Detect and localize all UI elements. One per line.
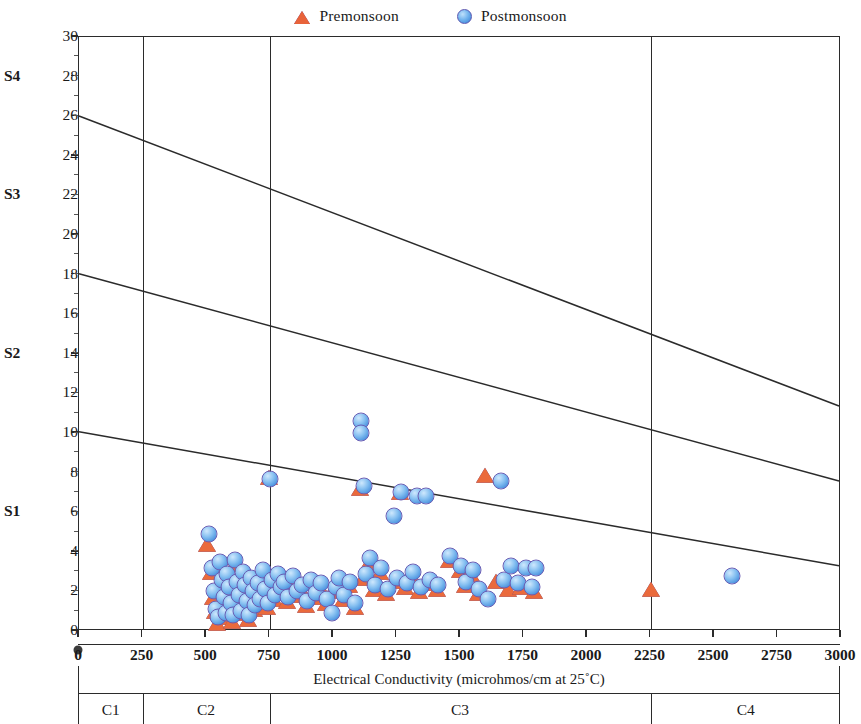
x-tick-label: 250 bbox=[130, 646, 153, 664]
x-tick-mark bbox=[204, 630, 206, 637]
x-tick-label: 2750 bbox=[761, 646, 792, 664]
chart-legend: Premonsoon Postmonsoon bbox=[0, 4, 861, 28]
x-tick-label: 2500 bbox=[698, 646, 729, 664]
y-axis-tick-labels: 024681012141618202224262830 bbox=[30, 0, 78, 724]
salinity-diagram: Premonsoon Postmonsoon S1S2S3S4 02468101… bbox=[0, 0, 861, 724]
x-tick-mark bbox=[77, 630, 79, 637]
y-minor-tick bbox=[74, 95, 78, 96]
data-point-postmonsoon bbox=[341, 573, 358, 590]
y-minor-tick bbox=[74, 75, 78, 76]
data-point-postmonsoon bbox=[492, 472, 509, 489]
y-minor-tick bbox=[74, 550, 78, 551]
y-minor-tick bbox=[74, 451, 78, 452]
x-tick-mark bbox=[522, 630, 524, 637]
data-point-postmonsoon bbox=[356, 478, 373, 495]
data-point-postmonsoon bbox=[393, 484, 410, 501]
data-point-postmonsoon bbox=[417, 488, 434, 505]
y-minor-tick bbox=[74, 333, 78, 334]
y-minor-tick bbox=[74, 214, 78, 215]
sodium-class-label-s3: S3 bbox=[4, 185, 20, 203]
x-tick-label: 3000 bbox=[825, 646, 856, 664]
x-tick-mark bbox=[649, 630, 651, 637]
y-minor-tick bbox=[74, 610, 78, 611]
sodium-class-label-s4: S4 bbox=[4, 67, 20, 85]
salinity-class-label-c2: C2 bbox=[197, 701, 215, 719]
data-point-postmonsoon bbox=[723, 567, 740, 584]
x-tick-label: 2000 bbox=[571, 646, 602, 664]
sodium-class-label-s1: S1 bbox=[4, 502, 20, 520]
boundary-line-s2-s3 bbox=[79, 274, 839, 481]
data-point-postmonsoon bbox=[347, 595, 364, 612]
plot-area bbox=[78, 36, 840, 630]
salinity-band-divider-750 bbox=[270, 694, 271, 724]
y-minor-tick bbox=[74, 570, 78, 571]
triangle-icon bbox=[294, 11, 310, 24]
salinity-class-label-c3: C3 bbox=[451, 701, 469, 719]
x-tick-label: 1250 bbox=[380, 646, 411, 664]
x-axis-title-box: Electrical Conductivity (microhmos/cm at… bbox=[78, 666, 840, 694]
circle-icon bbox=[457, 9, 472, 24]
salinity-divider-750 bbox=[270, 37, 272, 629]
data-point-postmonsoon bbox=[405, 563, 422, 580]
x-axis-line bbox=[78, 644, 840, 645]
y-minor-tick bbox=[74, 590, 78, 591]
data-point-postmonsoon bbox=[261, 470, 278, 487]
x-tick-mark bbox=[395, 630, 397, 637]
salinity-divider-2250 bbox=[651, 37, 653, 629]
salinity-class-band: C1C2C3C4 bbox=[78, 694, 840, 724]
x-tick-mark bbox=[776, 630, 778, 637]
x-tick-mark bbox=[839, 630, 841, 637]
boundary-line-s3-s4 bbox=[79, 116, 839, 406]
legend-label-postmonsoon: Postmonsoon bbox=[481, 7, 567, 25]
data-point-postmonsoon bbox=[528, 559, 545, 576]
y-minor-tick bbox=[74, 234, 78, 235]
data-point-postmonsoon bbox=[430, 577, 447, 594]
y-minor-tick bbox=[74, 313, 78, 314]
y-minor-tick bbox=[74, 115, 78, 116]
data-point-postmonsoon bbox=[385, 508, 402, 525]
x-tick-label: 1500 bbox=[444, 646, 475, 664]
y-minor-tick bbox=[74, 352, 78, 353]
data-point-postmonsoon bbox=[464, 561, 481, 578]
x-tick-label: 1000 bbox=[317, 646, 348, 664]
x-tick-label: 0 bbox=[74, 646, 82, 664]
y-minor-tick bbox=[74, 372, 78, 373]
x-axis-tick-labels: 0250500750100012501500175020002250250027… bbox=[0, 646, 861, 668]
x-tick-mark bbox=[141, 630, 143, 637]
x-tick-mark bbox=[458, 630, 460, 637]
y-minor-tick bbox=[74, 273, 78, 274]
class-boundary-lines bbox=[79, 37, 839, 629]
x-tick-label: 1750 bbox=[507, 646, 538, 664]
data-point-postmonsoon bbox=[373, 559, 390, 576]
legend-label-premonsoon: Premonsoon bbox=[319, 7, 399, 25]
y-minor-tick bbox=[74, 154, 78, 155]
data-point-postmonsoon bbox=[201, 525, 218, 542]
salinity-band-divider-250 bbox=[143, 694, 144, 724]
y-minor-tick bbox=[74, 412, 78, 413]
x-tick-mark bbox=[712, 630, 714, 637]
y-minor-tick bbox=[74, 392, 78, 393]
legend-item-premonsoon: Premonsoon bbox=[294, 7, 399, 25]
salinity-class-label-c4: C4 bbox=[737, 701, 755, 719]
data-point-postmonsoon bbox=[479, 591, 496, 608]
y-minor-tick bbox=[74, 491, 78, 492]
y-minor-tick bbox=[74, 55, 78, 56]
y-minor-tick bbox=[74, 531, 78, 532]
y-minor-tick bbox=[74, 471, 78, 472]
sodium-class-label-s2: S2 bbox=[4, 344, 20, 362]
y-minor-tick bbox=[74, 194, 78, 195]
x-tick-label: 2250 bbox=[634, 646, 665, 664]
data-point-premonsoon bbox=[642, 582, 660, 597]
x-axis-title: Electrical Conductivity (microhmos/cm at… bbox=[313, 671, 605, 688]
data-point-postmonsoon bbox=[324, 605, 341, 622]
y-minor-tick bbox=[74, 174, 78, 175]
salinity-band-divider-2250 bbox=[651, 694, 652, 724]
salinity-class-label-c1: C1 bbox=[102, 701, 120, 719]
x-tick-mark bbox=[268, 630, 270, 637]
boundary-line-s1-s2 bbox=[79, 432, 839, 566]
sodium-class-labels: S1S2S3S4 bbox=[0, 0, 34, 724]
x-tick-label: 500 bbox=[193, 646, 216, 664]
salinity-divider-250 bbox=[143, 37, 145, 629]
y-tick-mark bbox=[71, 35, 78, 37]
x-tick-mark bbox=[585, 630, 587, 637]
